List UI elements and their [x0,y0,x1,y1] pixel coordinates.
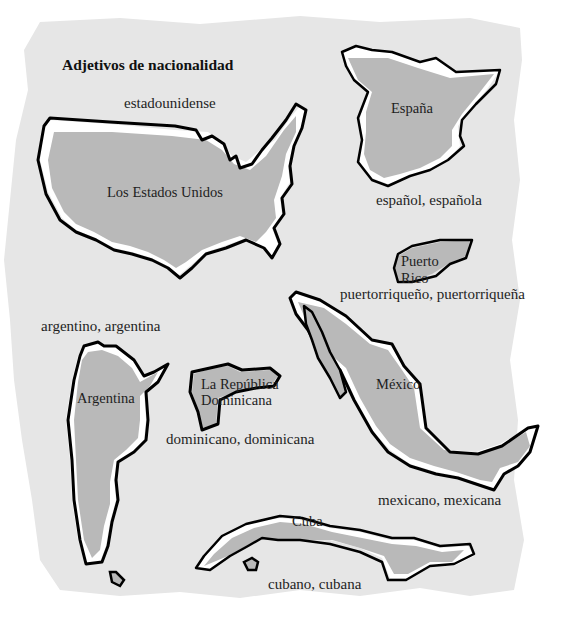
puerto-rico-name-line2: Rico [401,270,428,287]
isla-de-la-juventud-shape [244,558,258,570]
page-title: Adjetivos de nacionalidad [62,56,233,73]
dominican-republic-adjective: dominicano, dominicana [166,431,314,448]
spain-name: España [391,100,433,117]
dominican-republic-name-line2: Dominicana [201,392,272,409]
nationality-adjectives-diagram: Adjetivos de nacionalidad estadounidense… [0,0,561,625]
mexico-name: México [376,376,420,393]
argentina-adjective: argentino, argentina [41,318,160,335]
usa-adjective: estadounidense [124,95,216,112]
usa-name: Los Estados Unidos [107,184,223,201]
cuba-adjective: cubano, cubana [268,576,361,593]
dominican-republic-name-line1: La República [201,376,279,393]
argentina-name: Argentina [77,390,135,407]
map-illustration [0,0,561,625]
puerto-rico-name-line1: Puerto [401,253,439,270]
mexico-adjective: mexicano, mexicana [378,492,501,509]
puerto-rico-adjective: puertorriqueño, puertorriqueña [340,286,525,303]
spain-adjective: español, española [376,192,482,209]
cuba-name: Cuba [292,513,323,530]
